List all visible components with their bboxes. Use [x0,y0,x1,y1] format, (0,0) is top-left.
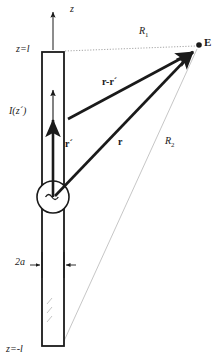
vector-r [55,52,193,196]
observation-point-dot [196,42,202,48]
vector-r-label: r [118,137,122,147]
distance-line-R1 [65,46,196,51]
diagram-canvas [0,0,223,364]
antenna-diagram-figure: z z=l z=-l I(z´) 2a R1 R2 r-r´ r´ r E [0,0,223,364]
vector-r-minus-r-prime-label: r-r´ [102,77,117,87]
distance-R2-subscript: 2 [171,141,174,148]
antenna-top-label: z=l [16,44,29,54]
distance-R1-label: R1 [139,26,149,39]
observation-point-label: E [204,37,211,48]
vector-r-minus-r-prime [68,52,193,119]
distance-R2-label: R2 [165,136,175,149]
antenna-diameter-label: 2a [15,257,25,267]
current-distribution-label: I(z´) [9,106,26,116]
distance-R1-subscript: 1 [145,31,148,38]
distance-line-R2 [64,49,197,341]
vector-r-prime-label: r´ [65,139,73,149]
antenna-bottom-label: z=-l [6,344,23,354]
z-axis-label: z [70,4,74,14]
